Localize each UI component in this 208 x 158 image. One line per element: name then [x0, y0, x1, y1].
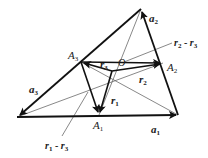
label-r1-minus-r3: r1 - r3 [45, 141, 68, 153]
label-A2: A2 [167, 62, 177, 75]
label-r2: r2 [139, 74, 147, 87]
label-sub: 3 [35, 89, 39, 97]
label-sub: 2 [155, 18, 159, 26]
label-sub: 3 [75, 55, 79, 63]
label-text: O [118, 57, 125, 68]
label-a3: a3 [29, 84, 38, 97]
diagram-canvas [0, 0, 208, 158]
label-text: A [93, 119, 100, 131]
label-sub: 2 [143, 79, 147, 87]
label-text: A [68, 49, 75, 61]
label-a2: a2 [149, 13, 158, 26]
label-A3: A3 [68, 50, 78, 63]
label-sub: 2 [174, 67, 178, 75]
label-sub: 1 [157, 129, 161, 137]
vector-diagram: A3 a2 r2 - r3 A2 r3 O r2 r1 a3 A1 a1 r1 … [0, 0, 208, 158]
vector-a1 [17, 115, 176, 117]
label-r3: r3 [100, 59, 108, 72]
label-r1: r1 [111, 95, 119, 108]
leader-r2-minus-r3 [124, 43, 172, 62]
label-op: - [52, 140, 60, 151]
label-text: A [167, 61, 174, 73]
label-sub: 3 [104, 64, 108, 72]
label-sub: 1 [115, 100, 119, 108]
label-r2-minus-r3: r2 - r3 [174, 38, 197, 50]
label-sub: 3 [65, 145, 69, 153]
label-A1: A1 [93, 120, 103, 133]
label-sub: 3 [194, 42, 198, 50]
label-a1: a1 [151, 124, 160, 137]
label-O: O [118, 58, 125, 68]
label-sub: 1 [100, 125, 104, 133]
label-op: - [181, 37, 189, 48]
